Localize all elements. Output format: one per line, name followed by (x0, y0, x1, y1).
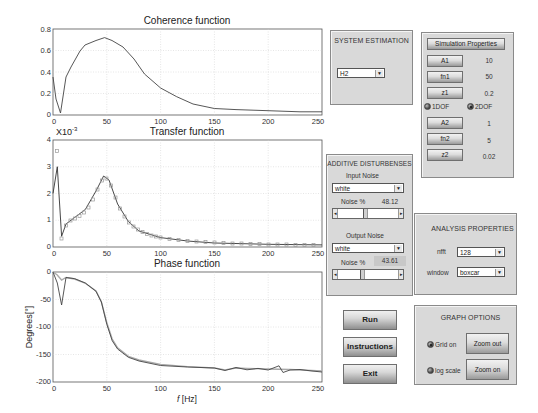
nfft-select[interactable]: 128 ▼ (457, 247, 505, 257)
svg-text:4: 4 (47, 135, 51, 144)
phase-plot: Phase function Degrees[°] -200 -150 -100… (24, 258, 324, 404)
analysis-title: ANALYSIS PROPERTIES (429, 225, 516, 232)
a2-button[interactable]: A2 (427, 117, 463, 129)
chevron-down-icon: ▼ (495, 249, 503, 256)
transfer-plot: Transfer function X10-3 0 1 2 3 4 0 50 1… (47, 126, 324, 258)
svg-text:-50: -50 (40, 295, 51, 304)
phase-title: Phase function (154, 258, 220, 269)
svg-text:50: 50 (103, 249, 111, 258)
svg-text:50: 50 (103, 117, 111, 126)
svg-text:50: 50 (103, 384, 111, 393)
svg-text:0: 0 (52, 117, 56, 126)
input-noise-percent-value: 48.12 (375, 198, 405, 205)
log-scale-label: log scale (435, 367, 461, 374)
zoom-out-button[interactable]: Zoom out (466, 333, 509, 354)
svg-text:0: 0 (52, 249, 56, 258)
svg-text:200: 200 (262, 117, 275, 126)
grid-on-radio[interactable] (427, 341, 434, 348)
svg-text:150: 150 (208, 384, 221, 393)
grid-on-label: Grid on (435, 341, 456, 348)
svg-text:100: 100 (154, 117, 167, 126)
a1-button[interactable]: A1 (427, 55, 463, 67)
plots-area: Coherence function 0 0.2 0.4 0.6 0.8 0 5… (0, 0, 330, 413)
slider-thumb[interactable] (360, 270, 365, 279)
svg-text:3: 3 (47, 162, 51, 171)
chevron-down-icon: ▼ (375, 70, 383, 77)
simulation-properties-button[interactable]: Simulation Properties (427, 38, 505, 50)
svg-text:200: 200 (262, 249, 275, 258)
nfft-label: nfft (437, 248, 446, 255)
radio-2dof[interactable] (467, 103, 474, 110)
chevron-down-icon: ▼ (495, 269, 503, 276)
svg-text:-150: -150 (36, 350, 51, 359)
phase-xlabel: f [Hz] (177, 394, 197, 404)
svg-text:2: 2 (47, 189, 51, 198)
svg-text:200: 200 (262, 384, 275, 393)
output-noise-type-select[interactable]: white ▼ (332, 243, 404, 253)
svg-text:0.8: 0.8 (41, 25, 51, 34)
svg-text:0.4: 0.4 (41, 68, 51, 77)
fn2-value: 5 (474, 137, 504, 144)
svg-text:250: 250 (312, 117, 325, 126)
graph-options-title: GRAPH OPTIONS (425, 314, 516, 321)
fn1-button[interactable]: fn1 (427, 71, 463, 83)
slider-left-arrow-icon[interactable]: ◂ (333, 270, 338, 279)
chevron-down-icon: ▼ (394, 185, 402, 192)
radio-1dof-label: 1DOF (432, 103, 449, 110)
window-label: window (427, 269, 449, 276)
transfer-title: Transfer function (150, 126, 225, 137)
slider-right-arrow-icon[interactable]: ▸ (398, 209, 403, 218)
a1-value: 10 (474, 57, 504, 64)
exponent-label: X10-3 (56, 126, 78, 137)
zoom-on-button[interactable]: Zoom on (466, 359, 509, 380)
svg-text:1: 1 (47, 215, 51, 224)
svg-text:-100: -100 (36, 322, 51, 331)
log-scale-radio[interactable] (427, 367, 434, 374)
slider-thumb[interactable] (363, 209, 368, 218)
svg-text:0: 0 (47, 267, 51, 276)
svg-text:-200: -200 (36, 377, 51, 386)
svg-text:100: 100 (154, 249, 167, 258)
output-noise-percent-value: 43.61 (374, 256, 406, 266)
window-select[interactable]: boxcar ▼ (457, 267, 505, 277)
slider-left-arrow-icon[interactable]: ◂ (333, 209, 338, 218)
svg-text:0.2: 0.2 (41, 89, 51, 98)
z2-button[interactable]: z2 (427, 149, 463, 161)
svg-text:250: 250 (312, 249, 325, 258)
svg-text:0.6: 0.6 (41, 46, 51, 55)
additive-disturbances-panel: ADDITIVE DISTURBENSES Input Noise white … (326, 154, 413, 296)
svg-text:0: 0 (47, 110, 51, 119)
coherence-plot: Coherence function 0 0.2 0.4 0.6 0.8 0 5… (41, 15, 325, 126)
input-noise-type-select[interactable]: white ▼ (332, 183, 404, 193)
output-noise-label: Output Noise (346, 232, 384, 239)
output-noise-slider[interactable]: ◂ ▸ (332, 269, 404, 280)
simulation-panel: Simulation Properties A1 10 fn1 50 z1 0.… (421, 32, 514, 178)
input-noise-slider[interactable]: ◂ ▸ (332, 208, 404, 219)
system-estimation-panel: SYSTEM ESTIMATION H2 ▼ (330, 30, 413, 105)
exit-button[interactable]: Exit (343, 364, 397, 384)
z1-button[interactable]: z1 (427, 87, 463, 99)
system-estimation-title: SYSTEM ESTIMATION (331, 37, 412, 44)
svg-text:150: 150 (208, 117, 221, 126)
z2-value: 0.02 (474, 153, 504, 160)
svg-text:250: 250 (312, 384, 325, 393)
radio-1dof[interactable] (424, 103, 431, 110)
analysis-properties-panel: ANALYSIS PROPERTIES nfft 128 ▼ window bo… (414, 213, 517, 295)
coherence-title: Coherence function (144, 15, 231, 26)
graph-options-panel: GRAPH OPTIONS Grid on log scale Zoom out… (414, 305, 517, 385)
run-button[interactable]: Run (343, 310, 397, 330)
estimator-select[interactable]: H2 ▼ (337, 68, 385, 78)
svg-text:150: 150 (208, 249, 221, 258)
slider-right-arrow-icon[interactable]: ▸ (398, 270, 403, 279)
svg-text:0: 0 (52, 384, 56, 393)
instructions-button[interactable]: Instructions (343, 337, 397, 357)
additive-title: ADDITIVE DISTURBENSES (327, 160, 412, 167)
input-noise-label: Input Noise (346, 172, 379, 179)
fn2-button[interactable]: fn2 (427, 133, 463, 145)
z1-value: 0.2 (474, 90, 504, 97)
chevron-down-icon: ▼ (394, 245, 402, 252)
a2-value: 1 (474, 120, 504, 127)
output-noise-percent-label: Noise % (341, 259, 365, 266)
svg-text:0: 0 (47, 242, 51, 251)
svg-text:100: 100 (154, 384, 167, 393)
